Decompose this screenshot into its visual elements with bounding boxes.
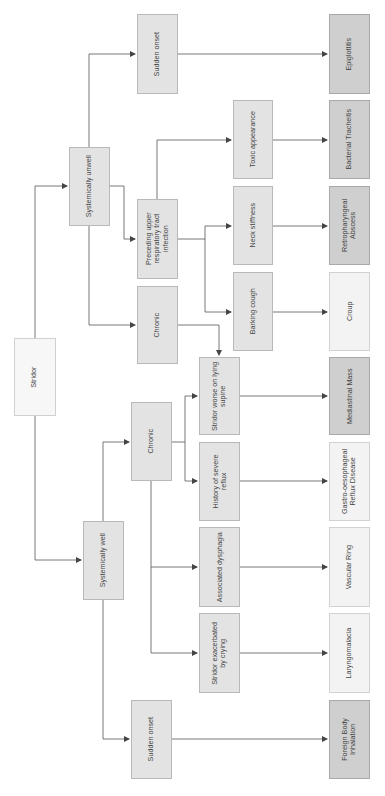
node-label: Gastro-oesophageal Reflux Disease <box>341 449 358 514</box>
edge-chronic-supine <box>172 396 197 442</box>
node-label: Barking cough <box>249 289 257 335</box>
node-label: Neck stiffness <box>249 203 257 248</box>
node-label: Bacterial Tracheitis <box>345 109 353 170</box>
node-associated-dysphagia: Associated dysphagia <box>199 527 240 607</box>
node-label: Epiglottitis <box>345 38 353 71</box>
outcome-epiglottitis: Epiglottitis <box>329 14 370 94</box>
node-unwell-sudden-onset: Sudden onset <box>137 14 178 94</box>
node-label: Stridor worse on lying supine <box>211 361 228 430</box>
node-severe-reflux: History of severe reflux <box>199 442 240 521</box>
outcome-vascular-ring: Vascular Ring <box>329 527 370 607</box>
node-label: Stridor exacerbated by crying <box>211 622 228 685</box>
node-label: Chronic <box>153 313 161 338</box>
node-label: Sudden onset <box>147 717 155 761</box>
edge-chronic-dysphagia <box>151 481 197 567</box>
edge-unwell-urti <box>110 186 135 239</box>
edge-stridor-well <box>35 416 81 560</box>
node-preceding-urti: Preceding upper respiratory tract infect… <box>137 199 178 279</box>
node-systemically-unwell: Systemically unwell <box>69 147 110 226</box>
node-systemically-well: Systemically well <box>83 521 124 600</box>
node-stridor-crying: Stridor exacerbated by crying <box>199 613 240 693</box>
node-label: Toxic appearance <box>249 111 257 167</box>
node-label: Mediastinal Mass <box>345 368 353 424</box>
node-label: Retropharyngeal Abscess <box>341 199 358 252</box>
node-stridor: Stridor <box>14 338 56 416</box>
outcome-mediastinal-mass: Mediastinal Mass <box>329 357 370 435</box>
node-label: Preceding upper respiratory tract infect… <box>145 213 170 266</box>
edge-well-sudden <box>103 600 129 739</box>
node-neck-stiffness: Neck stiffness <box>233 186 273 265</box>
edge-urti-barking <box>205 239 231 312</box>
node-label: Stridor <box>31 366 39 387</box>
connector-lines <box>0 0 385 796</box>
edge-unwell-chronic <box>89 226 135 325</box>
node-label: Chronic <box>147 429 155 454</box>
node-label: Sudden onset <box>153 32 161 76</box>
outcome-gord: Gastro-oesophageal Reflux Disease <box>329 442 370 521</box>
node-toxic-appearance: Toxic appearance <box>233 100 273 179</box>
node-label: Systemically well <box>99 533 107 587</box>
node-label: Associated dysphagia <box>215 532 223 602</box>
edge-chronic-crying <box>151 567 197 653</box>
node-stridor-supine: Stridor worse on lying supine <box>199 357 240 435</box>
node-label: Vascular Ring <box>345 545 353 589</box>
edge-stridor-unwell <box>35 186 67 338</box>
outcome-retropharyngeal-abscess: Retropharyngeal Abscess <box>329 186 370 265</box>
edge-unwell-chronic-supine <box>178 325 219 355</box>
edge-well-chronic <box>103 442 129 521</box>
outcome-croup: Croup <box>329 272 370 351</box>
outcome-bacterial-tracheitis: Bacterial Tracheitis <box>329 100 370 179</box>
edge-urti-toxic <box>157 140 231 199</box>
node-label: History of severe reflux <box>211 455 228 509</box>
node-label: Croup <box>345 302 353 322</box>
edge-chronic-reflux <box>185 442 197 481</box>
outcome-laryngomalacia: Laryngomalacia <box>329 613 370 693</box>
node-barking-cough: Barking cough <box>233 272 273 351</box>
node-well-sudden-onset: Sudden onset <box>131 700 172 779</box>
node-unwell-chronic: Chronic <box>137 286 178 364</box>
node-label: Systemically unwell <box>85 155 93 217</box>
edge-unwell-sudden <box>89 54 135 147</box>
outcome-foreign-body-inhalation: Foreign Body Inhalation <box>329 700 370 779</box>
node-well-chronic: Chronic <box>131 402 172 481</box>
edge-urti-neck <box>178 226 231 239</box>
node-label: Foreign Body Inhalation <box>341 718 358 761</box>
node-label: Laryngomalacia <box>345 628 353 679</box>
